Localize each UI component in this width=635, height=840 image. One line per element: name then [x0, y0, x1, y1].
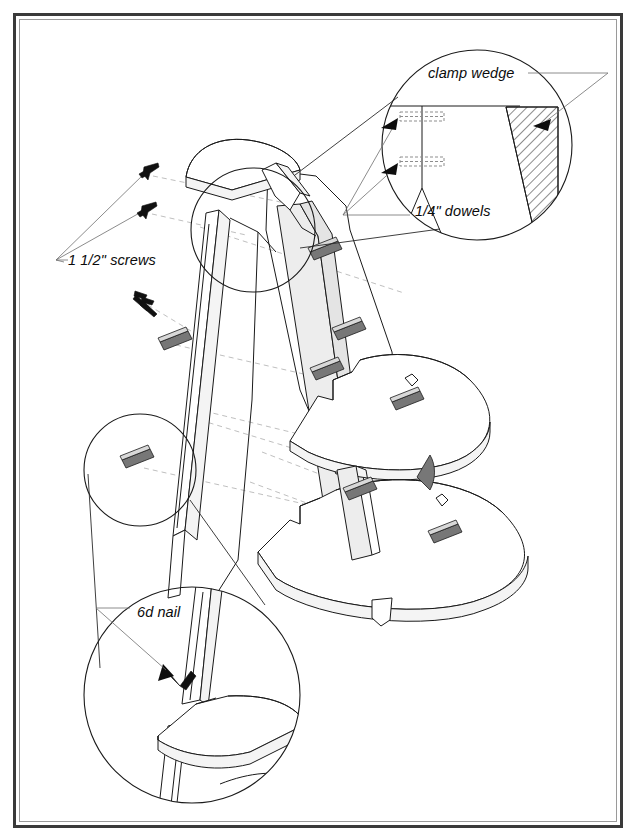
drawing-page: 1 1/2" screws — [0, 0, 635, 840]
dowels-label: 1/4" dowels — [415, 203, 491, 219]
screws-label: 1 1/2" screws — [68, 252, 156, 268]
nail-label: 6d nail — [137, 604, 181, 620]
assembly-drawing-canvas: 1 1/2" screws — [0, 0, 635, 840]
clamp-wedge-label: clamp wedge — [428, 65, 515, 81]
